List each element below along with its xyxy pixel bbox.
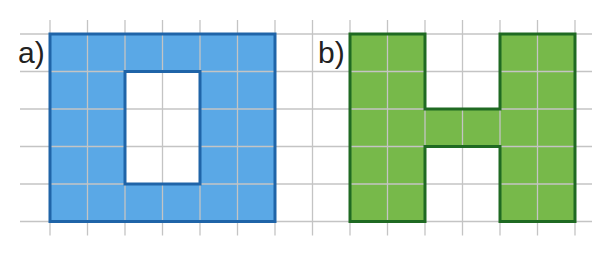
figure-b-label: b) [318, 38, 345, 68]
figure-a-label: a) [18, 38, 45, 68]
grid-diagram [0, 0, 610, 255]
